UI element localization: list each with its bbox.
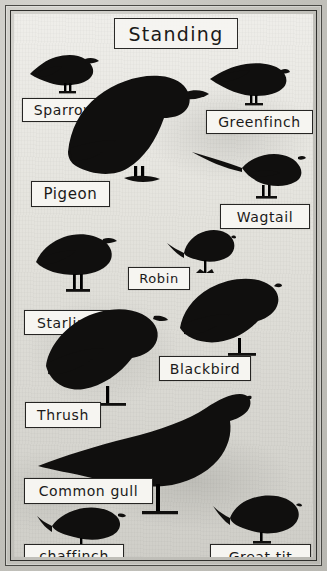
- greenfinch-silhouette-icon: [208, 55, 290, 107]
- blackbird-silhouette-icon: [176, 276, 282, 362]
- label-pigeon: Pigeon: [31, 181, 110, 207]
- bird-identification-poster: Standing Sparrow Greenfi: [0, 0, 327, 571]
- label-blackbird: Blackbird: [159, 356, 251, 381]
- label-common-gull: Common gull: [24, 478, 153, 504]
- starling-silhouette-icon: [32, 228, 118, 300]
- great-tit-silhouette-icon: [212, 492, 302, 550]
- label-greenfinch: Greenfinch: [206, 110, 313, 134]
- label-great-tit: Great tit: [210, 544, 311, 557]
- wagtail-silhouette-icon: [190, 148, 306, 204]
- poster-paper-sheet: Standing Sparrow Greenfi: [14, 14, 313, 557]
- label-chaffinch: chaffinch: [24, 544, 124, 557]
- page-title: Standing: [114, 18, 238, 49]
